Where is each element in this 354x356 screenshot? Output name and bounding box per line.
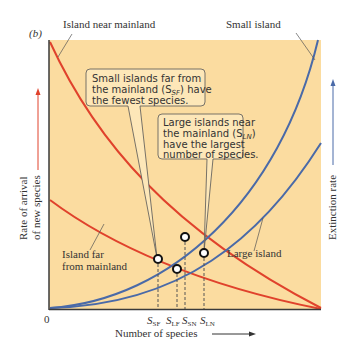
svg-text:number of species.: number of species.	[163, 149, 259, 160]
y-axis-left-title: Rate of arrival of new species	[17, 175, 42, 240]
point-sln	[200, 249, 208, 257]
point-ssn	[181, 233, 189, 241]
origin-label: 0	[44, 313, 50, 325]
svg-text:Rate of arrival: Rate of arrival	[17, 176, 29, 240]
point-slf	[173, 265, 181, 273]
x-tick-labels: SSF SLF SSN SLN	[147, 314, 215, 328]
y-right-arrowhead-icon	[331, 79, 336, 86]
chart: Small islands far from the mainland (SSF…	[0, 0, 354, 356]
svg-text:the fewest species.: the fewest species.	[92, 95, 188, 106]
svg-text:SLN: SLN	[200, 314, 215, 328]
svg-text:Extinction rate: Extinction rate	[326, 175, 338, 240]
y-left-arrowhead-icon	[36, 88, 41, 95]
svg-text:SSF: SSF	[147, 314, 160, 328]
svg-text:Large islands near: Large islands near	[163, 117, 256, 128]
label-large-island: Large island	[227, 247, 282, 259]
y-axis-right-title: Extinction rate	[326, 175, 338, 240]
x-axis-title: Number of species	[115, 327, 197, 339]
svg-text:SSN: SSN	[182, 314, 196, 328]
label-island-far-1: Island far	[62, 248, 104, 260]
label-small-island: Small island	[226, 18, 281, 30]
panel-label: (b)	[29, 27, 42, 40]
svg-text:of new species: of new species	[30, 175, 42, 240]
label-island-near: Island near mainland	[63, 18, 156, 30]
label-island-far-2: from mainland	[62, 260, 128, 272]
point-ssf	[154, 255, 162, 263]
svg-text:Small islands far from: Small islands far from	[92, 73, 201, 84]
svg-text:SLF: SLF	[166, 314, 180, 328]
x-arrowhead-icon	[249, 332, 256, 337]
